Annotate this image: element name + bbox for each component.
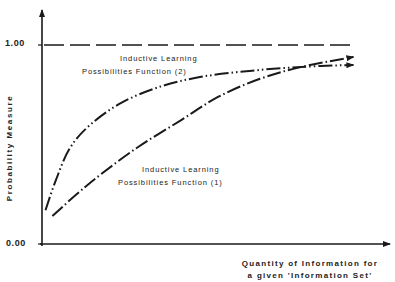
function-2-label-line2: Possibilities Function (2) [82, 67, 187, 76]
x-axis-label-line2: a given 'Information Set' [230, 270, 390, 282]
function-1-label-line1: Inductive Learning [142, 165, 220, 174]
y-axis-label: Probability Measure [5, 95, 14, 201]
series-function-1 [52, 57, 353, 216]
chart: 1.00 0.00 Probability Measure Inductive … [0, 0, 395, 282]
series-function-2 [46, 65, 354, 210]
y-tick-1: 1.00 [5, 38, 25, 48]
function-1-label-line2: Possibilities Function (1) [118, 178, 223, 187]
x-axis-label: Quantity of Information for a given 'Inf… [230, 258, 390, 282]
y-tick-0: 0.00 [6, 238, 26, 248]
x-axis-label-line1: Quantity of Information for [230, 258, 390, 270]
function-2-label-line1: Inductive Learning [120, 54, 198, 63]
plot-area [0, 0, 395, 282]
